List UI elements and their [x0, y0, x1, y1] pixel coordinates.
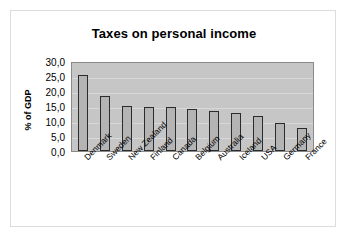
chart-figure: Taxes on personal income % of GDP 30,025…: [0, 0, 347, 238]
y-axis-label: % of GDP: [20, 70, 34, 150]
y-tick-label: 5,0: [51, 132, 65, 143]
x-label-slot: Iceland: [226, 153, 248, 217]
y-tick-label: 25,0: [46, 72, 65, 83]
x-label-slot: Belgium: [181, 153, 203, 217]
y-axis-tick-labels: 30,025,020,015,010,05,00,0: [34, 62, 68, 152]
x-label-slot: Sweden: [93, 153, 115, 217]
y-tick-label: 30,0: [46, 57, 65, 68]
bar-slot: [72, 63, 94, 151]
x-label-slot: Australia: [204, 153, 226, 217]
y-tick-label: 15,0: [46, 102, 65, 113]
y-tick-label: 0,0: [51, 147, 65, 158]
x-label-slot: France: [292, 153, 314, 217]
y-axis-label-text: % of GDP: [22, 89, 32, 130]
y-tick-label: 10,0: [46, 117, 65, 128]
x-label-slot: Finland: [137, 153, 159, 217]
bar: [275, 123, 285, 151]
x-label-slot: USA: [248, 153, 270, 217]
y-tick-label: 20,0: [46, 87, 65, 98]
chart-title: Taxes on personal income: [24, 26, 324, 41]
x-label-slot: Canada: [159, 153, 181, 217]
x-label-slot: Denmark: [71, 153, 93, 217]
x-label-slot: Germany: [270, 153, 292, 217]
bar-slot: [269, 63, 291, 151]
bar: [78, 75, 88, 152]
x-axis-tick-labels: DenmarkSwedenNew ZealandFinlandCanadaBel…: [71, 153, 314, 217]
x-label-slot: New Zealand: [115, 153, 137, 217]
